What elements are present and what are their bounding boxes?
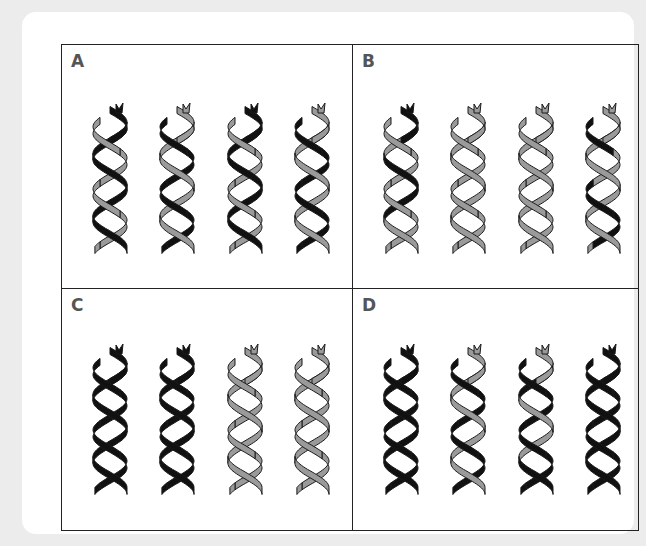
dna-helix-icon (579, 100, 627, 258)
dna-helix-icon (153, 100, 201, 258)
helix-row (86, 100, 336, 260)
panel-grid: A B C D (61, 44, 639, 531)
panel-a: A (62, 45, 353, 289)
panel-label: D (362, 295, 376, 315)
dna-helix-icon (221, 100, 269, 258)
dna-helix-icon (444, 341, 492, 499)
panel-b: B (353, 45, 638, 289)
dna-helix-icon (86, 341, 134, 499)
dna-helix-icon (86, 100, 134, 258)
dna-helix-icon (512, 341, 560, 499)
panel-c: C (62, 289, 353, 530)
dna-helix-icon (377, 100, 425, 258)
helix-row (377, 341, 627, 501)
dna-helix-icon (512, 100, 560, 258)
panel-label: A (71, 51, 84, 71)
dna-helix-icon (444, 100, 492, 258)
dna-helix-icon (153, 341, 201, 499)
panel-label: B (362, 51, 375, 71)
panel-label: C (71, 295, 83, 315)
figure-card: A B C D (22, 12, 634, 534)
dna-helix-icon (288, 341, 336, 499)
dna-helix-icon (579, 341, 627, 499)
dna-helix-icon (288, 100, 336, 258)
helix-row (86, 341, 336, 501)
helix-row (377, 100, 627, 260)
panel-d: D (353, 289, 638, 530)
dna-helix-icon (221, 341, 269, 499)
dna-helix-icon (377, 341, 425, 499)
